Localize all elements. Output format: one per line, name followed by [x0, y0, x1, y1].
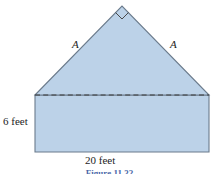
base-dimension-label: 20 feet [85, 155, 115, 166]
figure-drawing-canvas [0, 0, 219, 174]
geometry-figure: A A 6 feet 20 feet Figure 11.32 [0, 0, 219, 174]
rectangle-body [35, 95, 209, 152]
figure-caption: Figure 11.32 [0, 169, 219, 174]
side-label-left: A [72, 39, 79, 50]
side-label-right: A [170, 39, 177, 50]
height-dimension-label: 6 feet [3, 116, 28, 127]
